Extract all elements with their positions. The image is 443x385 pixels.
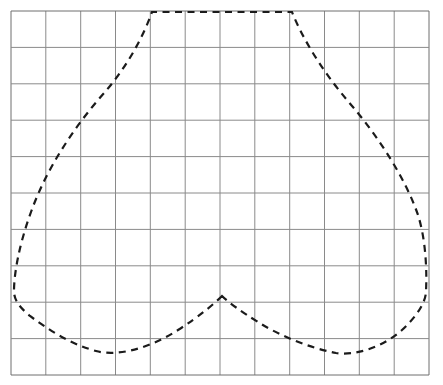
figure-container — [0, 0, 443, 385]
heart-curve-figure — [0, 0, 443, 385]
